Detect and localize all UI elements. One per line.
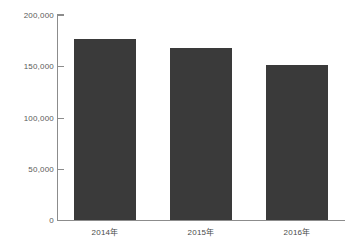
x-axis-line bbox=[57, 220, 345, 221]
bar bbox=[170, 48, 232, 220]
y-axis-tick-label: 100,000 bbox=[24, 113, 54, 122]
bar bbox=[74, 39, 136, 220]
y-axis-tick-label: 200,000 bbox=[24, 11, 54, 20]
bar-chart: 050,000100,000150,000200,000 2014年2015年2… bbox=[0, 0, 353, 244]
y-axis-tick-label: 0 bbox=[49, 216, 54, 225]
x-axis-tick-label: 2014年 bbox=[57, 226, 153, 237]
bar bbox=[266, 65, 328, 220]
y-axis-tick bbox=[57, 220, 64, 221]
x-axis-tick-label: 2016年 bbox=[249, 226, 345, 237]
y-axis-tick bbox=[57, 169, 64, 170]
y-axis-tick bbox=[57, 118, 64, 119]
y-axis-tick bbox=[57, 66, 64, 67]
x-axis-tick-label: 2015年 bbox=[153, 226, 249, 237]
y-axis-tick bbox=[57, 15, 64, 16]
y-axis-tick-label: 50,000 bbox=[28, 164, 54, 173]
y-axis-tick-label: 150,000 bbox=[24, 62, 54, 71]
